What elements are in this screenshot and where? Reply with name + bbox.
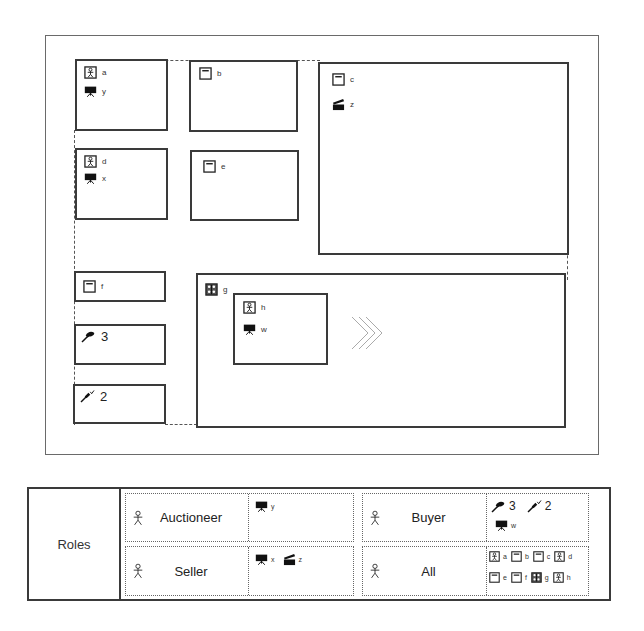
video-camera-icon: [243, 323, 256, 336]
role-card-buyer[interactable]: Buyer 3 2 w: [362, 493, 589, 542]
grant-label: f: [525, 574, 527, 581]
panel-label: e: [221, 162, 225, 171]
connector-bottom: [165, 424, 197, 425]
panel-h-w[interactable]: h w: [233, 293, 328, 365]
gavel-hand-icon: [491, 500, 506, 513]
panel-f[interactable]: f: [74, 271, 166, 302]
role-card-auctioneer[interactable]: Auctioneer y: [125, 493, 354, 542]
roles-header-label: Roles: [57, 537, 90, 552]
person-icon: [132, 563, 144, 579]
grant-label: y: [271, 503, 275, 510]
grant-label: h: [567, 574, 571, 581]
role-name: Auctioneer: [154, 510, 248, 525]
role-name: All: [391, 564, 486, 579]
gavel-check-icon: [80, 390, 95, 403]
grant-label: 2: [545, 499, 552, 513]
grant-label: g: [545, 574, 549, 581]
person-window-icon: [489, 551, 500, 562]
role-card-all[interactable]: All a b c d e f g h: [362, 546, 589, 596]
grant-label: z: [299, 556, 303, 563]
panel-label: b: [217, 69, 221, 78]
role-card-seller[interactable]: Seller x z: [125, 546, 354, 596]
panel-b[interactable]: b: [189, 60, 298, 132]
window-icon: [511, 572, 522, 583]
video-camera-icon: [495, 519, 508, 532]
panel-bid-2[interactable]: 2: [73, 384, 166, 424]
grant-label: e: [503, 574, 507, 581]
person-window-icon: [243, 301, 256, 314]
panel-g[interactable]: g h w: [196, 273, 566, 428]
video-camera-icon: [84, 85, 97, 98]
window-icon: [511, 551, 522, 562]
panel-e[interactable]: e: [190, 150, 299, 221]
panel-c-z[interactable]: c z: [318, 62, 569, 255]
window-icon: [83, 280, 96, 293]
window-icon: [332, 73, 345, 86]
panel-label: h: [261, 303, 265, 312]
panel-a-y[interactable]: a y: [75, 59, 168, 131]
person-icon: [132, 510, 144, 526]
bid-count: 3: [101, 329, 108, 344]
group-window-icon: [531, 572, 542, 583]
person-icon: [369, 510, 381, 526]
grant-label: w: [511, 522, 516, 529]
window-icon: [203, 160, 216, 173]
clapperboard-icon: [332, 98, 345, 111]
bid-count: 2: [100, 389, 107, 404]
grant-label: b: [525, 553, 529, 560]
panel-bid-3[interactable]: 3: [74, 324, 166, 365]
panel-label: x: [102, 174, 106, 183]
panel-label: g: [223, 285, 227, 294]
panel-label: z: [350, 100, 354, 109]
panel-label: d: [102, 157, 106, 166]
chevrons-right-icon[interactable]: [350, 315, 384, 351]
panel-label: a: [102, 68, 106, 77]
video-camera-icon: [255, 553, 268, 566]
person-window-icon: [553, 572, 564, 583]
group-window-icon: [205, 283, 218, 296]
role-name: Buyer: [391, 510, 486, 525]
window-icon: [199, 67, 212, 80]
video-camera-icon: [255, 500, 268, 513]
grant-label: x: [271, 556, 275, 563]
window-icon: [533, 551, 544, 562]
panel-d-x[interactable]: d x: [75, 148, 168, 220]
role-name: Seller: [154, 564, 248, 579]
roles-table: Roles Auctioneer y Buyer 3 2: [27, 487, 611, 601]
panel-label: w: [261, 325, 267, 334]
person-window-icon: [84, 155, 97, 168]
panel-label: c: [350, 75, 354, 84]
panel-label: y: [102, 87, 106, 96]
video-camera-icon: [84, 172, 97, 185]
grant-label: d: [568, 553, 572, 560]
gavel-check-icon: [527, 500, 542, 513]
grant-label: c: [547, 553, 551, 560]
person-icon: [369, 563, 381, 579]
panel-label: f: [101, 282, 103, 291]
roles-header: Roles: [29, 489, 121, 599]
clapperboard-icon: [283, 553, 296, 566]
person-window-icon: [554, 551, 565, 562]
grant-label: a: [503, 553, 507, 560]
grant-label: 3: [509, 499, 516, 513]
person-window-icon: [84, 66, 97, 79]
gavel-hand-icon: [81, 330, 96, 343]
window-icon: [489, 572, 500, 583]
